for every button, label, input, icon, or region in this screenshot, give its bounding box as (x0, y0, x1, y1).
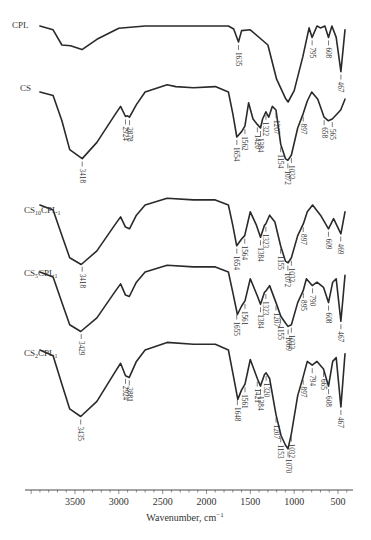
peak-label: 3418 (78, 274, 86, 289)
peak-label: 1155 (276, 326, 284, 341)
peak-label: 897 (299, 234, 307, 245)
peak-label: 469 (336, 244, 344, 255)
peak-label: 1654 (232, 147, 240, 162)
peak-labels: 1635795608467341829242878165415621420138… (76, 40, 344, 473)
series-label-cpl: CPL (12, 20, 29, 30)
series-label-cs: CS (20, 83, 31, 93)
peak-label: 1154 (276, 154, 284, 169)
peak-label: 2878 (125, 127, 133, 142)
peak-label: 608 (324, 313, 332, 324)
peak-label: 895 (299, 300, 307, 311)
peak-label: 1562 (240, 136, 248, 151)
peak-label: 1322 (261, 122, 269, 137)
peak-label: 1323 (261, 234, 269, 249)
x-tick-label: 500 (331, 496, 346, 507)
peak-label: 1384 (256, 396, 264, 411)
peak-label: 1561 (240, 311, 248, 326)
ftir-spectra-chart: 1635795608467341829242878165415621420138… (0, 0, 371, 540)
x-tick-label: 3000 (109, 496, 129, 507)
x-tick-label: 2000 (197, 496, 217, 507)
peak-label: 1655 (232, 322, 240, 337)
peak-label: 1207 (272, 120, 280, 135)
peak-label: 1561 (240, 394, 248, 409)
x-axis-label: Wavenumber, cm−1 (146, 511, 224, 523)
peak-label: 1320 (262, 383, 270, 398)
peak-label: 1032 (287, 165, 295, 180)
peak-label: 1153 (276, 444, 284, 459)
peak-label: 790 (308, 295, 316, 306)
x-tick-label: 1500 (240, 496, 260, 507)
peak-label: 658 (320, 127, 328, 138)
peak-label: 1032 (287, 268, 295, 283)
peak-label: 3429 (77, 341, 85, 356)
peak-label: 1032 (287, 335, 295, 350)
x-axis: 350030002500200015001000500 Wavenumber, … (25, 490, 353, 523)
peak-label: 2881 (125, 387, 133, 402)
peak-label: 1384 (256, 138, 264, 153)
x-tick-labels: 350030002500200015001000500 (65, 496, 346, 507)
x-tick-label: 1000 (284, 496, 304, 507)
series-labels: CPL CS CS10CPL1 CS5CPL1 CS2CPL1 (12, 20, 61, 359)
trace-cs (40, 85, 345, 161)
peak-label: 467 (336, 82, 344, 93)
trace-cs10cpl1 (40, 198, 345, 264)
peak-label: 3418 (78, 169, 86, 184)
peak-label: 1384 (256, 314, 264, 329)
peak-label: 795 (308, 47, 316, 58)
peak-label: 3435 (76, 427, 84, 442)
peak-label: 1070 (284, 459, 292, 474)
peak-label: 1323 (261, 301, 269, 316)
peak-label: 794 (308, 375, 316, 386)
x-tick-label: 3500 (65, 496, 85, 507)
peak-label: 897 (299, 124, 307, 135)
x-tick-label: 2500 (153, 496, 173, 507)
peak-label: 1564 (240, 246, 248, 261)
peak-label: 1155 (276, 256, 284, 271)
peak-label: 1654 (232, 256, 240, 271)
peak-label: 1635 (234, 52, 242, 67)
peak-label: 1207 (272, 425, 280, 440)
trace-cpl (40, 26, 345, 102)
series-label-cs5cpl1: CS5CPL1 (24, 268, 58, 279)
peak-label: 565 (328, 129, 336, 140)
peak-label: 1648 (233, 407, 241, 422)
peak-label: 665 (319, 379, 327, 390)
peak-label: 1032 (287, 444, 295, 459)
peak-label: 609 (324, 239, 332, 250)
peak-label: 467 (336, 417, 344, 428)
peak-label: 608 (324, 47, 332, 58)
series-label-cs2cpl1: CS2CPL1 (24, 348, 58, 359)
peak-label: 467 (336, 331, 344, 342)
peak-label: 608 (324, 396, 332, 407)
peak-label: 897 (299, 387, 307, 398)
peak-label: 1384 (256, 247, 264, 262)
series-label-cs10cpl1: CS10CPL1 (24, 205, 61, 216)
